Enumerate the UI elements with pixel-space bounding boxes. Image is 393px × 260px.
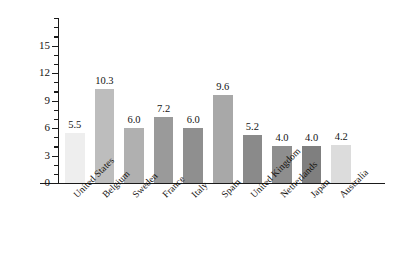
y-axis-tick-label: 6 xyxy=(34,122,50,133)
y-axis-major-tick xyxy=(52,46,58,47)
unemployment-rate-bar-chart: Unemployment rate 03691215 5.510.36.07.2… xyxy=(0,0,393,260)
y-axis-major-tick xyxy=(52,183,58,184)
bar-value-label: 6.0 xyxy=(176,115,210,126)
bar xyxy=(65,133,85,183)
bar xyxy=(243,135,263,183)
y-axis-major-tick xyxy=(52,101,58,102)
bar xyxy=(183,128,203,183)
y-axis-minor-tick xyxy=(54,174,58,175)
y-axis-tick-label: 12 xyxy=(34,67,50,78)
bar-value-label: 10.3 xyxy=(88,76,122,87)
y-axis-tick-label: 3 xyxy=(34,150,50,161)
bar xyxy=(331,145,351,184)
y-axis-minor-tick xyxy=(54,146,58,147)
y-axis-major-tick xyxy=(52,156,58,157)
y-axis-tick-label: 9 xyxy=(34,95,50,106)
bar-value-label: 7.2 xyxy=(147,104,181,115)
y-axis-minor-tick xyxy=(54,137,58,138)
y-axis-minor-tick xyxy=(54,110,58,111)
bar xyxy=(213,95,233,183)
y-axis-minor-tick xyxy=(54,91,58,92)
bar-value-label: 4.2 xyxy=(324,132,358,143)
bar-value-label: 9.6 xyxy=(206,82,240,93)
y-axis-minor-tick xyxy=(54,165,58,166)
y-axis-minor-tick xyxy=(54,82,58,83)
x-axis-category-labels: United StatesBelgiumSwedenFranceItalySpa… xyxy=(0,186,393,260)
y-axis-minor-tick xyxy=(54,55,58,56)
y-axis-major-tick xyxy=(52,73,58,74)
y-axis-minor-tick xyxy=(54,36,58,37)
bar xyxy=(154,117,174,183)
bar-value-label: 4.0 xyxy=(265,133,299,144)
y-axis-minor-tick xyxy=(54,64,58,65)
y-axis-tick-label: 15 xyxy=(34,40,50,51)
bar-value-label: 5.2 xyxy=(236,122,270,133)
bar-value-label: 6.0 xyxy=(117,115,151,126)
y-axis-minor-tick xyxy=(54,18,58,19)
bar-value-label: 4.0 xyxy=(295,133,329,144)
bar-value-label: 5.5 xyxy=(58,120,92,131)
y-axis-minor-tick xyxy=(54,27,58,28)
